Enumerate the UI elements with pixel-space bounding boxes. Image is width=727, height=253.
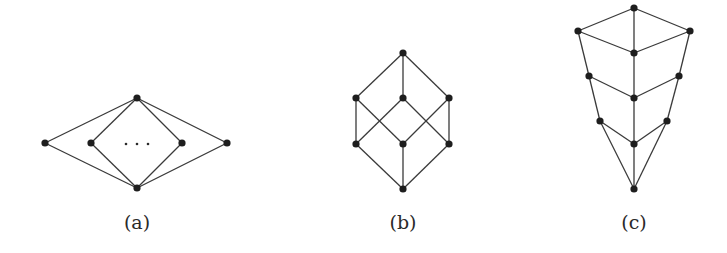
- edge-r3-left-bottom: [600, 121, 634, 189]
- edge-atom-2-bottom: [91, 143, 137, 188]
- panel-c: [574, 4, 693, 192]
- node-r2-left: [585, 72, 592, 79]
- edge-r3-right-bottom: [634, 121, 667, 189]
- caption-b: (b): [390, 211, 417, 233]
- edge-r1-left-r1-center: [578, 31, 634, 53]
- edge-r2-left-r3-left: [589, 76, 600, 121]
- edge-top-atom-1: [45, 98, 137, 143]
- edge-atom-1-bottom: [45, 143, 137, 188]
- node-atom-n: [223, 139, 230, 146]
- node-atom-2: [87, 139, 94, 146]
- node-r1-center: [630, 49, 637, 56]
- edge-r2-right-r3-right: [667, 76, 679, 121]
- node-r3-right: [663, 117, 670, 124]
- node-m-right: [445, 94, 452, 101]
- panel-a: [41, 94, 230, 191]
- node-r1-right: [686, 27, 693, 34]
- edge-r2-left-r2-center: [589, 76, 634, 98]
- node-top: [399, 49, 406, 56]
- node-r3-center: [630, 140, 637, 147]
- ellipsis-dot: [147, 143, 150, 146]
- node-m-left: [352, 94, 359, 101]
- node-r3-left: [596, 117, 603, 124]
- edge-top-atom-n-1: [137, 98, 182, 143]
- edge-top-atom-n: [137, 98, 227, 143]
- caption-a: (a): [124, 211, 150, 233]
- edge-top-m-right: [403, 53, 449, 98]
- node-bottom: [630, 185, 637, 192]
- node-r2-center: [630, 94, 637, 101]
- node-bottom: [399, 185, 406, 192]
- caption-c: (c): [621, 211, 646, 233]
- lattice-figure: (a) (b) (c): [0, 0, 727, 253]
- edge-top-atom-2: [91, 98, 137, 143]
- node-top: [630, 4, 637, 11]
- edge-top-r1-right: [634, 8, 690, 31]
- edge-l-left-bottom: [356, 144, 403, 189]
- node-atom-n-1: [178, 139, 185, 146]
- node-l-left: [352, 140, 359, 147]
- edge-l-right-bottom: [403, 144, 449, 189]
- node-atom-1: [41, 139, 48, 146]
- node-m-center: [399, 94, 406, 101]
- edge-r2-right-r2-center: [634, 76, 679, 98]
- panel-b: [352, 49, 452, 192]
- edge-r1-right-r2-right: [679, 31, 690, 76]
- edge-top-m-left: [356, 53, 403, 98]
- edge-r1-right-r1-center: [634, 31, 690, 53]
- ellipsis-dot: [136, 143, 139, 146]
- node-bottom: [133, 184, 140, 191]
- ellipsis-dot: [125, 143, 128, 146]
- edge-r1-left-r2-left: [578, 31, 589, 76]
- node-r2-right: [675, 72, 682, 79]
- edge-atom-n-1-bottom: [137, 143, 182, 188]
- node-r1-left: [574, 27, 581, 34]
- edge-top-r1-left: [578, 8, 634, 31]
- node-l-right: [445, 140, 452, 147]
- node-l-center: [399, 140, 406, 147]
- node-top: [133, 94, 140, 101]
- edge-atom-n-bottom: [137, 143, 227, 188]
